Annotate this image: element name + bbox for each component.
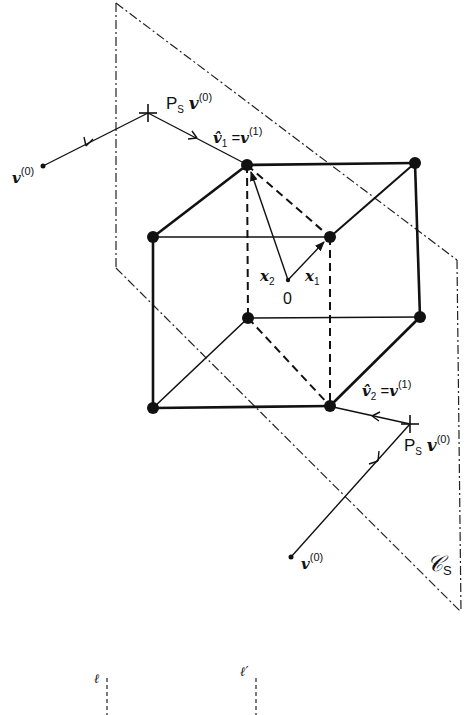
origin-label: 0	[283, 291, 292, 307]
x1-label: x1	[305, 268, 320, 284]
bottom-lines	[107, 678, 256, 715]
plane-label: 𝒞S	[427, 553, 452, 575]
cube-vertices	[147, 157, 426, 414]
top-projection-label: PS v(0)	[166, 95, 212, 112]
top-start-label: v(0)	[12, 170, 34, 186]
bottom-projection-path	[291, 407, 419, 557]
bottom-projection-label: PS v(0)	[404, 437, 450, 454]
origin-point	[286, 278, 290, 282]
bottom-result-label: v̂2 =v(1)	[362, 383, 411, 399]
top-start-point	[41, 164, 46, 169]
x2-label: x2	[260, 268, 275, 284]
top-result-label: v̂1 =v(1)	[213, 130, 262, 146]
diagram-canvas	[0, 0, 470, 715]
bottom-start-point	[289, 555, 294, 560]
line-l-prime-label: ℓ′	[240, 665, 248, 678]
basis-vectors	[251, 172, 324, 280]
line-l-label: ℓ	[94, 672, 99, 685]
bottom-start-label: v(0)	[301, 556, 323, 572]
